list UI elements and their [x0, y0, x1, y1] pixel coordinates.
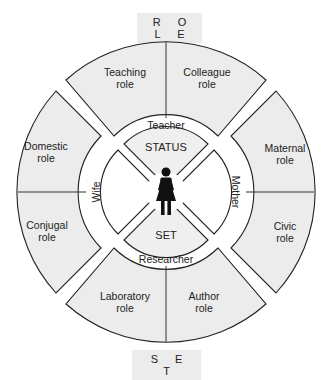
- segment-group-left: [17, 91, 101, 293]
- status-label-wife: Wife: [90, 181, 102, 202]
- status-label-mother: Mother: [230, 176, 242, 209]
- status-label-teacher: Teacher: [147, 119, 185, 131]
- segment-group-right: [231, 91, 315, 293]
- center-label-set: SET: [155, 229, 177, 241]
- center-label-status: STATUS: [145, 141, 187, 153]
- status-label-researcher: Researcher: [139, 253, 194, 265]
- role-label-civic: Civicrole: [274, 220, 297, 244]
